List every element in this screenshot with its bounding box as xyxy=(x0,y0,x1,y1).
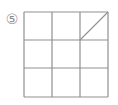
grid-diagram xyxy=(0,0,118,105)
figure-root: ⑤ xyxy=(0,0,118,105)
diagonal-line-top-right-cell xyxy=(80,12,108,40)
